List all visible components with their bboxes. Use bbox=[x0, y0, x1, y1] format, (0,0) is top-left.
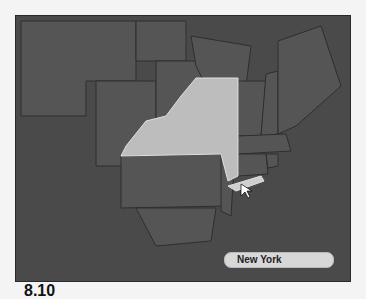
state-name-text: New York bbox=[237, 254, 282, 265]
state-massachusetts[interactable] bbox=[238, 134, 291, 154]
state-name-label: New York bbox=[224, 252, 334, 268]
state-region-north-central[interactable] bbox=[136, 21, 186, 61]
map-frame: New York bbox=[15, 15, 351, 282]
state-connecticut[interactable] bbox=[238, 154, 268, 176]
state-rhode-island[interactable] bbox=[266, 154, 278, 168]
state-pennsylvania[interactable] bbox=[121, 154, 228, 208]
us-northeast-map bbox=[16, 16, 350, 281]
figure-caption: 8.10 bbox=[24, 283, 55, 299]
